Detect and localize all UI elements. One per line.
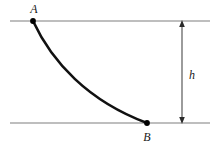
label-point-a: A (29, 2, 38, 16)
descent-curve (33, 21, 147, 123)
label-point-b: B (143, 130, 151, 144)
point-a-marker (30, 18, 36, 24)
diagram-canvas: A B h (0, 0, 218, 146)
label-height-h: h (189, 68, 195, 82)
point-b-marker (144, 120, 150, 126)
height-drop-diagram: A B h (0, 0, 218, 146)
